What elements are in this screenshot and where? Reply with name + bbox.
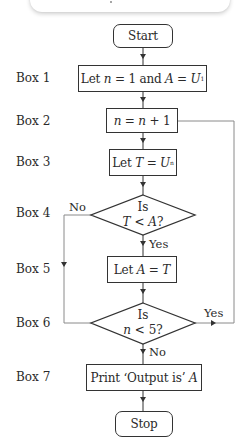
decision-box6-text: Is n < 5?: [113, 308, 173, 338]
box2-text: + 1: [146, 114, 171, 128]
process-box2: n = n + 1: [106, 108, 178, 133]
box2-text: =: [121, 114, 138, 128]
box3-subscript: n: [170, 159, 174, 166]
box5-var-t: T: [162, 263, 170, 277]
box4-line1: Is: [113, 200, 173, 215]
box1-text: Let: [81, 72, 104, 86]
box1-var-n: n: [104, 72, 112, 86]
row-label-box6: Box 6: [16, 316, 50, 330]
stop-label: Stop: [130, 417, 157, 431]
box3-text: Let: [112, 156, 135, 170]
box4-q: ?: [157, 215, 163, 229]
box6-line1: Is: [113, 308, 173, 323]
box4-op: <: [131, 215, 149, 229]
box3-var-u: U: [160, 156, 170, 170]
row-label-box4: Box 4: [16, 206, 50, 220]
box6-op: < 5?: [131, 323, 163, 337]
box1-var-u: U: [191, 72, 201, 86]
edge-label-box6-yes: Yes: [204, 306, 223, 320]
box2-var-n: n: [138, 114, 146, 128]
row-label-box2: Box 2: [16, 114, 50, 128]
box6-line2: n < 5?: [113, 323, 173, 338]
box5-var-a: A: [137, 263, 145, 277]
edge-label-box4-yes: Yes: [149, 237, 168, 251]
box5-text: Let: [114, 263, 137, 277]
box1-subscript: 1: [201, 75, 205, 82]
process-box5: Let A = T: [107, 256, 177, 283]
box1-var-a: A: [165, 72, 173, 86]
box3-text: =: [143, 156, 160, 170]
edge-label-box6-no: No: [149, 345, 166, 359]
box7-var-a: A: [189, 371, 197, 385]
row-label-box3: Box 3: [16, 155, 50, 169]
box4-var-t: T: [123, 215, 131, 229]
box2-var-n: n: [114, 114, 122, 128]
process-box1: Let n = 1 and A = U1: [78, 65, 207, 92]
box4-var-a: A: [148, 215, 157, 229]
box5-text: =: [145, 263, 162, 277]
row-label-box5: Box 5: [16, 262, 50, 276]
row-label-box1: Box 1: [16, 71, 50, 85]
stop-terminal: Stop: [115, 411, 173, 437]
box1-text: = 1 and: [111, 72, 165, 86]
decision-box4-text: Is T < A?: [113, 200, 173, 230]
row-label-box7: Box 7: [16, 370, 50, 384]
process-box7: Print ‘Output is’ A: [86, 364, 202, 391]
edge-label-box4-no: No: [69, 200, 86, 214]
box1-text: =: [174, 72, 191, 86]
box6-var-n: n: [123, 323, 131, 337]
box4-line2: T < A?: [113, 215, 173, 230]
start-terminal: Start: [113, 24, 173, 48]
box3-var-t: T: [135, 156, 143, 170]
process-box3: Let T = Un: [109, 149, 177, 176]
box7-text: Print ‘Output is’: [91, 371, 189, 385]
start-label: Start: [128, 29, 158, 43]
